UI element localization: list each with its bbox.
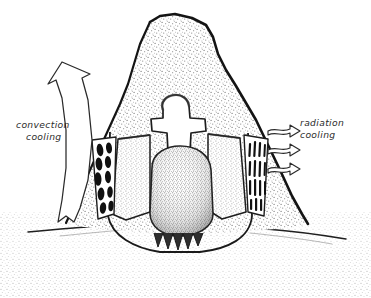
radiation-label-line2: cooling [300, 129, 336, 140]
nest-chamber [150, 146, 213, 236]
right-ventilation-ducts [244, 135, 268, 216]
right-air-gallery [208, 134, 246, 219]
radiation-arrow [268, 125, 300, 137]
left-air-gallery [112, 135, 150, 220]
convection-label: convection cooling [16, 119, 70, 142]
diagram-canvas: convection cooling radiation cooling [0, 0, 371, 298]
radiation-arrows [268, 125, 300, 175]
convection-label-line2: cooling [26, 131, 62, 142]
radiation-label-line1: radiation [300, 117, 344, 128]
termite-mound-diagram: convection cooling radiation cooling [0, 0, 371, 298]
convection-label-line1: convection [16, 119, 70, 130]
radiation-label: radiation cooling [300, 117, 344, 140]
